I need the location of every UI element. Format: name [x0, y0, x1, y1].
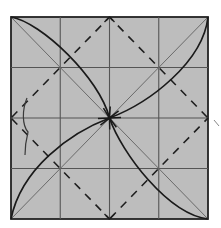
right-edge-tick — [214, 120, 219, 126]
center-point — [108, 116, 112, 120]
origami-diagram — [0, 0, 221, 228]
